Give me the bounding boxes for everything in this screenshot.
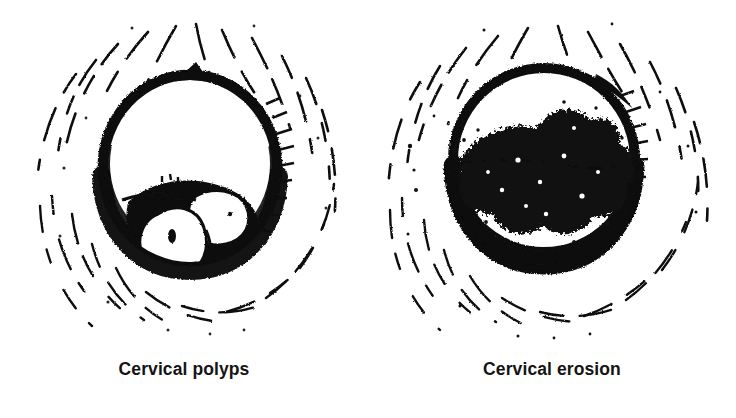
figure-plate: Cervical polyps <box>0 0 736 418</box>
caption-cervical-erosion: Cervical erosion <box>368 360 736 379</box>
cervical-erosion-illustration <box>368 0 736 352</box>
cervical-polyps-illustration <box>0 0 368 352</box>
figure-panel-cervical-erosion: Cervical erosion <box>368 0 736 418</box>
figure-panel-cervical-polyps: Cervical polyps <box>0 0 368 418</box>
caption-cervical-polyps: Cervical polyps <box>0 360 368 379</box>
